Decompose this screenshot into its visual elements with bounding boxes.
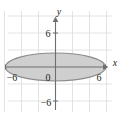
graph-figure: y x −6 6 6 −6 0 [0,0,120,119]
x-tick-label-negative-six: −6 [7,72,18,83]
coordinate-plane: y x −6 6 6 −6 0 [0,0,120,119]
x-tick-label-positive-six: 6 [97,72,102,83]
y-tick-label-positive-six: 6 [46,28,51,39]
x-axis-label: x [112,57,118,68]
y-tick-label-negative-six: −6 [41,97,52,108]
y-axis-label: y [56,6,62,17]
origin-label: 0 [46,72,51,83]
